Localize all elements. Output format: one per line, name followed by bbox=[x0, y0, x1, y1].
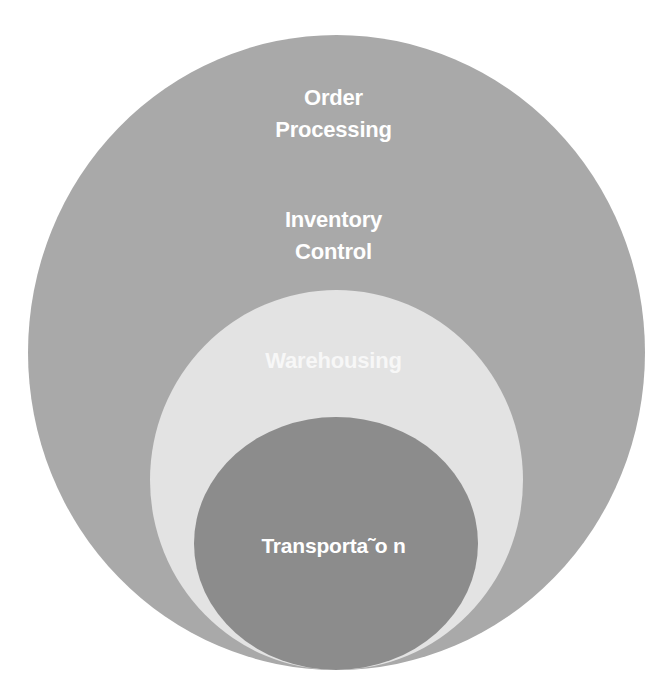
label-warehousing: Warehousing bbox=[0, 345, 667, 377]
label-transportation-line1: Transporta˜o n bbox=[0, 530, 667, 562]
label-inventory-control: Inventory Control bbox=[0, 204, 667, 268]
label-inventory-control-line1: Inventory bbox=[0, 204, 667, 236]
label-order-processing: Order Processing bbox=[0, 82, 667, 146]
label-order-processing-line2: Processing bbox=[0, 114, 667, 146]
label-warehousing-line1: Warehousing bbox=[0, 345, 667, 377]
label-order-processing-line1: Order bbox=[0, 82, 667, 114]
nested-circles-diagram: Order Processing Inventory Control Wareh… bbox=[0, 0, 667, 691]
label-inventory-control-line2: Control bbox=[0, 236, 667, 268]
label-transportation: Transporta˜o n bbox=[0, 530, 667, 562]
